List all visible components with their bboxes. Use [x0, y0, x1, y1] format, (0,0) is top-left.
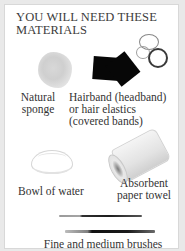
paper-towel-label-line2: paper towel	[111, 189, 177, 201]
hairband-label: Hairband (headband) or hair elastics (co…	[69, 91, 185, 127]
hairband-label-line3: (covered bands)	[69, 115, 185, 127]
hair-elastic-icon	[148, 48, 168, 68]
fine-brush-icon	[59, 215, 142, 217]
materials-panel: YOU WILL NEED THESE MATERIALS Natural sp…	[4, 4, 179, 249]
sponge-label-line2: sponge	[15, 103, 61, 115]
page-title: YOU WILL NEED THESE MATERIALS	[16, 11, 176, 37]
sponge-label-line1: Natural	[15, 91, 61, 103]
hairband-label-line2: or hair elastics	[69, 103, 185, 115]
hairband-label-line1: Hairband (headband)	[69, 91, 185, 103]
sponge-icon	[38, 52, 72, 88]
sponge-label: Natural sponge	[15, 91, 61, 115]
paper-towel-label: Absorbent paper towel	[111, 177, 177, 201]
paper-towel-label-line1: Absorbent	[111, 177, 177, 189]
brushes-label: Fine and medium brushes	[33, 238, 173, 250]
bowl-label: Bowl of water	[18, 185, 98, 197]
bowl-rim-icon	[38, 153, 66, 161]
medium-brush-icon	[65, 230, 155, 233]
